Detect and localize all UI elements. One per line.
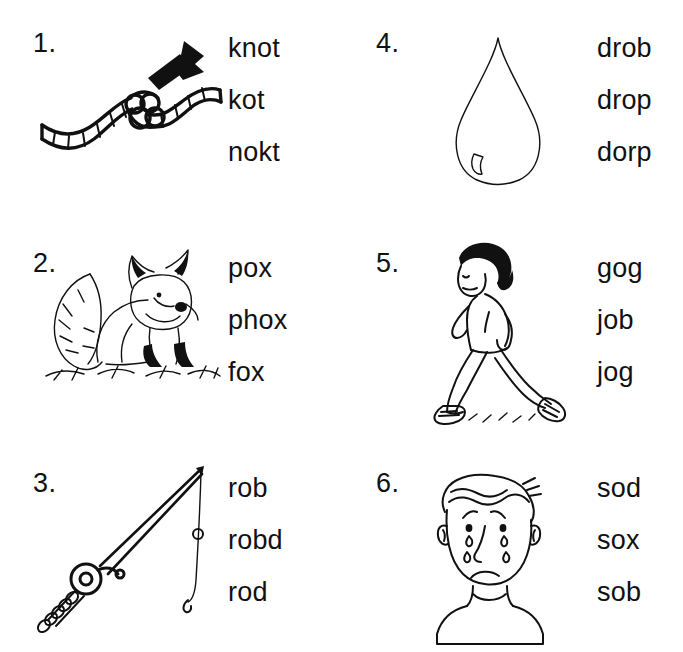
choice-list: sod sox sob — [597, 462, 683, 618]
item-number: 5. — [376, 250, 400, 277]
choice-option[interactable]: rod — [228, 566, 338, 618]
crying-boy-illustration — [411, 448, 586, 648]
choice-option[interactable]: pox — [228, 242, 338, 294]
choice-option[interactable]: job — [597, 294, 683, 346]
choice-option[interactable]: rob — [228, 462, 338, 514]
pointer-arrow — [148, 41, 204, 90]
choice-list: rob robd rod — [228, 462, 338, 618]
fox-illustration — [28, 228, 233, 428]
choice-list: gog job jog — [597, 242, 683, 398]
choice-option[interactable]: nokt — [228, 126, 338, 178]
worksheet-item-6: 6. — [341, 440, 683, 652]
worksheet-item-1: 1. — [0, 0, 341, 220]
choice-option[interactable]: sox — [597, 514, 683, 566]
choice-list: knot kot nokt — [228, 22, 338, 178]
choice-list: pox phox fox — [228, 242, 338, 398]
choice-option[interactable]: drop — [597, 74, 683, 126]
worksheet-item-4: 4. drob drop dorp — [341, 0, 683, 220]
choice-option[interactable]: dorp — [597, 126, 683, 178]
choice-option[interactable]: phox — [228, 294, 338, 346]
choice-option[interactable]: drob — [597, 22, 683, 74]
worksheet-grid: 1. — [0, 0, 683, 652]
choice-option[interactable]: sod — [597, 462, 683, 514]
worksheet-item-2: 2. — [0, 220, 341, 440]
choice-option[interactable]: robd — [228, 514, 338, 566]
worksheet-item-5: 5. — [341, 220, 683, 440]
worksheet-item-3: 3. — [0, 440, 341, 652]
jogging-person-illustration — [411, 228, 586, 428]
item-number: 4. — [376, 30, 400, 57]
worksheet-page: 1. — [0, 0, 683, 652]
choice-option[interactable]: fox — [228, 346, 338, 398]
choice-option[interactable]: kot — [228, 74, 338, 126]
fishing-rod-illustration — [28, 448, 233, 648]
water-drop-illustration — [411, 8, 586, 208]
choice-option[interactable]: jog — [597, 346, 683, 398]
knotted-rope-illustration — [28, 8, 233, 208]
item-number: 6. — [376, 470, 400, 497]
choice-list: drob drop dorp — [597, 22, 683, 178]
choice-option[interactable]: sob — [597, 566, 683, 618]
choice-option[interactable]: knot — [228, 22, 338, 74]
choice-option[interactable]: gog — [597, 242, 683, 294]
